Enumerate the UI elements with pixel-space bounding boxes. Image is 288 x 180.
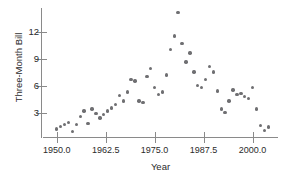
data-point (173, 34, 176, 37)
data-point (223, 111, 226, 114)
data-point (259, 124, 262, 127)
data-point (94, 112, 97, 115)
chart-figure: 36912 1950.01962.51975.01987.52000.0 Thr… (0, 0, 288, 180)
x-tick (253, 132, 254, 143)
data-point (90, 107, 93, 110)
data-point (59, 125, 62, 128)
data-point (251, 86, 254, 89)
data-point (102, 113, 105, 116)
data-point (145, 75, 148, 78)
data-point (122, 99, 125, 102)
x-tick (106, 132, 107, 143)
data-point (267, 125, 270, 128)
data-point (157, 93, 160, 96)
data-point (212, 70, 215, 73)
data-point (137, 99, 140, 102)
data-point (79, 115, 82, 118)
data-point (180, 42, 183, 45)
data-point (126, 90, 129, 93)
x-tick-label: 1987.5 (179, 145, 229, 155)
x-tick-label: 2000.0 (228, 145, 278, 155)
x-tick (57, 132, 58, 143)
x-axis-line (43, 137, 278, 138)
x-axis-title: Year (43, 161, 278, 172)
x-tick-label: 1975.0 (130, 145, 180, 155)
y-axis-line (41, 8, 42, 138)
data-point (216, 89, 219, 92)
data-point (192, 70, 195, 73)
data-point (161, 90, 164, 93)
data-point (263, 129, 266, 132)
data-point (204, 78, 207, 81)
x-tick (155, 132, 156, 143)
data-point (110, 106, 113, 109)
data-point (118, 94, 121, 97)
data-point (86, 122, 89, 125)
data-point (114, 103, 117, 106)
y-axis-title: Three-Month Bill (13, 12, 24, 124)
data-point (208, 65, 211, 68)
data-point (55, 127, 58, 130)
data-point (247, 97, 250, 100)
data-point (188, 51, 191, 54)
data-point (239, 92, 242, 95)
data-point (63, 123, 66, 126)
data-point (200, 86, 203, 89)
x-tick-label: 1962.5 (81, 145, 131, 155)
data-point (243, 95, 246, 98)
data-point (255, 107, 258, 110)
data-point (196, 84, 199, 87)
x-tick (204, 132, 205, 143)
data-point (129, 78, 132, 81)
data-point (184, 60, 187, 63)
data-point (149, 67, 152, 70)
data-point (67, 121, 70, 124)
data-point (98, 116, 101, 119)
data-point (227, 99, 230, 102)
data-point (71, 130, 74, 133)
data-point (231, 88, 234, 91)
data-point (75, 123, 78, 126)
data-point (141, 101, 144, 104)
data-point (133, 79, 136, 82)
data-point (165, 73, 168, 76)
data-point (176, 11, 179, 14)
x-tick-label: 1950.0 (32, 145, 82, 155)
data-point (106, 109, 109, 112)
data-point (82, 109, 85, 112)
data-point (235, 93, 238, 96)
data-point (220, 107, 223, 110)
data-point (169, 48, 172, 51)
scatter-plot-area: 36912 1950.01962.51975.01987.52000.0 Thr… (0, 0, 288, 180)
data-point (153, 86, 156, 89)
